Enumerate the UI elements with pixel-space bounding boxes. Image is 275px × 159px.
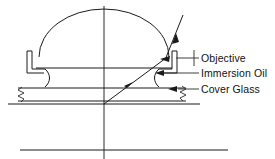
label-cover-glass: Cover Glass xyxy=(201,83,260,95)
objective-housing-left-outer xyxy=(27,51,44,73)
oil-meniscus-right xyxy=(155,69,160,87)
exit-ray-arrowhead xyxy=(172,33,179,44)
label-objective: Objective xyxy=(201,52,246,64)
cover-glass-pointer-arrowhead xyxy=(168,86,177,92)
objective-housing-left-inner xyxy=(32,51,45,69)
marginal-ray-line xyxy=(104,58,166,104)
figure-container: Objective Immersion Oil Cover Glass xyxy=(0,0,275,159)
exit-ray-line xyxy=(165,15,183,60)
marginal-ray-arrowhead xyxy=(124,82,133,88)
oil-immersion-objective-diagram: Objective Immersion Oil Cover Glass xyxy=(0,0,275,159)
left-break-symbol xyxy=(18,87,24,102)
immersion-oil-pointer-arrowhead xyxy=(155,70,164,76)
oil-meniscus-left xyxy=(45,69,50,87)
label-immersion-oil: Immersion Oil xyxy=(201,67,267,79)
